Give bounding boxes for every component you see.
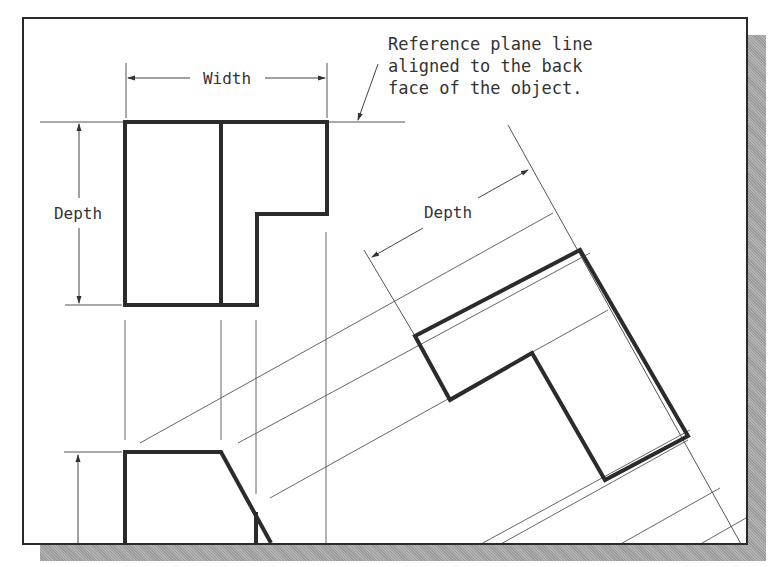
- aux-depth-dimension-line-right: [478, 170, 528, 198]
- leader-line: [358, 64, 378, 120]
- reference-plane-annotation: Reference plane line aligned to the back…: [358, 34, 593, 120]
- annotation-line-1: Reference plane line: [388, 34, 593, 54]
- front-view-outline: [125, 452, 271, 543]
- vertical-projection-lines: [125, 232, 326, 543]
- depth-label-top-view: Depth: [54, 204, 102, 223]
- diagram-canvas: Width Depth: [0, 0, 776, 567]
- auxiliary-view: Depth: [140, 125, 746, 553]
- width-label: Width: [203, 69, 251, 88]
- annotation-line-2: aligned to the back: [388, 56, 582, 76]
- aux-depth-dimension-line-left: [372, 228, 423, 257]
- drawing: Width Depth: [0, 0, 776, 567]
- top-view-outline: [125, 122, 327, 305]
- top-view: Width Depth: [40, 63, 405, 305]
- depth-label-aux-view: Depth: [424, 203, 472, 222]
- front-view: [64, 452, 271, 543]
- aux-depth-extension: [364, 250, 415, 336]
- auxiliary-reference-plane-line: [508, 125, 746, 553]
- annotation-line-3: face of the object.: [388, 78, 582, 98]
- auxiliary-view-outline: [415, 250, 688, 480]
